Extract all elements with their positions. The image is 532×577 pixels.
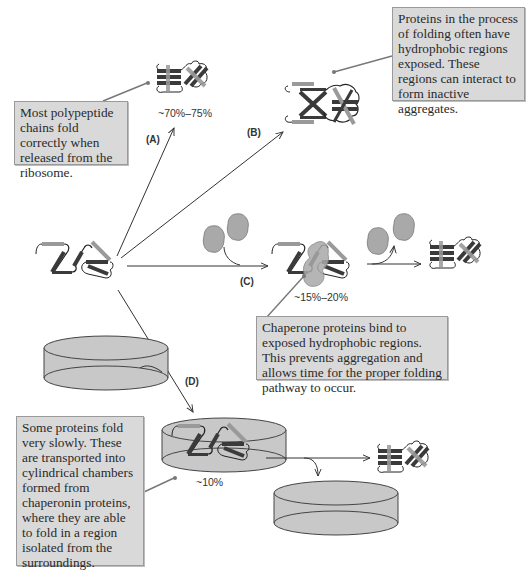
chaperone-protein-icon (203, 226, 224, 253)
note-correct-folding: Most polypeptide chains fold correctly w… (14, 101, 128, 165)
percentage-label-d: ~10% (196, 476, 223, 488)
chamber-with-chain-icon (162, 418, 286, 472)
chaperone-protein-icon (393, 214, 414, 241)
aggregate-icon (285, 82, 359, 124)
pathway-label-b: (B) (247, 127, 261, 138)
folded-protein-icon (430, 237, 480, 268)
note-chaperonin: Some proteins fold very slowly. These ar… (16, 416, 144, 566)
unfolded-polypeptide-icon (36, 242, 113, 278)
note-aggregation: Proteins in the process of folding often… (392, 7, 525, 101)
folded-protein-icon (157, 61, 207, 92)
chaperonin-chamber-icon (274, 481, 398, 535)
chaperone-binding-curve (224, 247, 240, 265)
folded-protein-icon (378, 441, 428, 472)
chaperonin-chamber-icon (44, 336, 168, 390)
pathway-label-d: (D) (185, 376, 199, 387)
chaperone-bound-chain-icon (272, 242, 349, 287)
percentage-label-a: ~70%–75% (158, 107, 212, 119)
chaperone-protein-icon (227, 214, 248, 241)
pathway-b-arrow (121, 132, 283, 258)
pathway-label-a: (A) (146, 134, 160, 145)
callout-leader-b (334, 56, 392, 72)
callout-leader-d (144, 478, 174, 492)
percentage-label-c: ~15%–20% (294, 291, 348, 303)
callout-leader-a (103, 83, 147, 101)
chamber-release-arrow (304, 458, 318, 476)
note-chaperone: Chaperone proteins bind to exposed hydro… (256, 316, 448, 380)
chaperone-protein-icon (367, 228, 388, 255)
pathway-label-c: (C) (240, 276, 254, 287)
